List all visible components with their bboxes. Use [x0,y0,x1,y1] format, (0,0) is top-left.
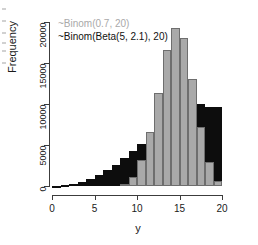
histogram-bar [61,185,70,187]
legend-item-binom: ~Binom(0.7, 20) [58,17,168,30]
histogram-bar [78,182,87,186]
histogram-bar [214,181,223,186]
histogram-bar [69,184,78,186]
histogram-bar [163,50,172,186]
histogram-bar [205,162,214,186]
x-axis-title-text: y [135,222,141,234]
y-tick-label-text: 0 [39,187,48,192]
histogram-bar [112,165,121,186]
histogram-figure: 05000100001500020000 05101520 Frequency … [0,0,258,245]
x-axis-title: y [0,222,258,234]
histogram-bar [129,177,138,186]
y-tick-label-text: 10000 [39,105,48,130]
y-axis-line [49,22,50,187]
histogram-bar [197,127,206,186]
histogram-bar [95,175,104,186]
histogram-bar [214,107,223,186]
x-tick-label: 0 [37,203,67,214]
x-tick [222,195,223,200]
x-tick [180,195,181,200]
histogram-bar [52,186,61,188]
histogram-bar [146,132,155,186]
histogram-bar [180,38,189,186]
histogram-bar [188,79,197,186]
y-tick-label-text: 20000 [39,23,48,48]
histogram-bar [120,184,129,186]
x-tick [95,195,96,200]
y-tick-label-text: 15000 [39,64,48,89]
y-tick-label-text: 5000 [39,146,48,166]
legend-item-beta-binom: ~Binom(Beta(5, 2.1), 20) [58,30,168,43]
histogram-bar [120,158,129,186]
legend: ~Binom(0.7, 20) ~Binom(Beta(5, 2.1), 20) [58,17,168,43]
x-tick-label: 10 [122,203,152,214]
histogram-bar [103,170,112,186]
x-tick [52,195,53,200]
histogram-bar [171,28,180,186]
x-tick-label: 20 [207,203,237,214]
x-tick-label: 5 [80,203,110,214]
histogram-bar [137,160,146,186]
x-tick [137,195,138,200]
histogram-bar [86,179,95,186]
x-tick-label: 15 [165,203,195,214]
y-axis-title: Frequency [6,21,18,73]
histogram-bar [154,93,163,186]
